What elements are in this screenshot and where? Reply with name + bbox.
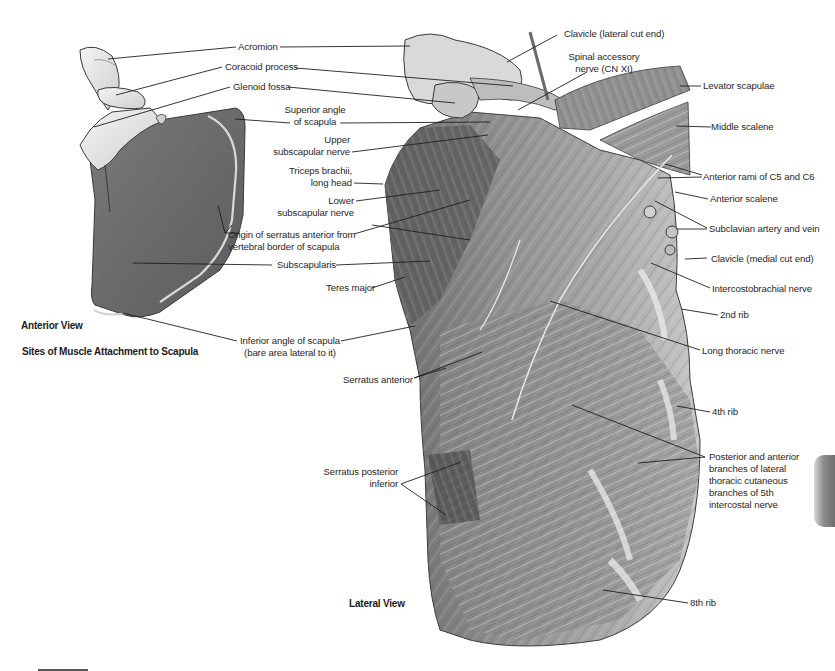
label-clavicle-lateral: Clavicle (lateral cut end) bbox=[564, 28, 664, 40]
label-2nd-rib: 2nd rib bbox=[720, 309, 749, 321]
label-anterior-rami: Anterior rami of C5 and C6 bbox=[703, 171, 815, 183]
label-clavicle-medial: Clavicle (medial cut end) bbox=[711, 253, 814, 265]
label-lower-subscapular-line1: Lower bbox=[270, 195, 354, 207]
label-serratus-origin-line1: Origin of serratus anterior from bbox=[228, 229, 355, 241]
thorax-lateral-illustration bbox=[385, 32, 700, 646]
label-triceps-line2: long head bbox=[282, 177, 352, 189]
label-subclavian-artery-vein: Subclavian artery and vein bbox=[709, 223, 819, 235]
anterior-view-subtitle: Sites of Muscle Attachment to Scapula bbox=[22, 346, 198, 357]
anterior-view-title: Anterior View bbox=[21, 320, 83, 331]
anatomy-illustration bbox=[0, 0, 835, 671]
label-long-thoracic-nerve: Long thoracic nerve bbox=[702, 345, 784, 357]
label-superior-angle-line2: of scapula bbox=[282, 116, 348, 128]
label-glenoid-fossa: Glenoid fossa bbox=[233, 81, 290, 93]
label-triceps-line1: Triceps brachii, bbox=[282, 165, 352, 177]
label-superior-angle: Superior angle of scapula bbox=[282, 104, 348, 128]
label-inferior-angle: Inferior angle of scapula (bare area lat… bbox=[238, 335, 342, 359]
label-triceps-brachii: Triceps brachii, long head bbox=[282, 165, 352, 189]
label-upper-subscapular-line2: subscapular nerve bbox=[270, 146, 350, 158]
label-superior-angle-line1: Superior angle bbox=[282, 104, 348, 116]
label-8th-rib: 8th rib bbox=[690, 597, 716, 609]
label-branches-line3: thoracic cutaneous bbox=[709, 475, 799, 487]
label-branches-line4: branches of 5th bbox=[709, 487, 799, 499]
label-middle-scalene: Middle scalene bbox=[711, 121, 774, 133]
page-thumb-tab bbox=[814, 455, 835, 527]
label-serratus-posterior-line1: Serratus posterior bbox=[316, 466, 398, 478]
label-serratus-origin: Origin of serratus anterior from vertebr… bbox=[228, 229, 355, 253]
label-acromion: Acromion bbox=[238, 41, 278, 53]
label-serratus-anterior: Serratus anterior bbox=[343, 374, 413, 386]
label-4th-rib: 4th rib bbox=[712, 406, 738, 418]
label-anterior-scalene: Anterior scalene bbox=[710, 193, 778, 205]
label-spinal-accessory-line2: nerve (CN XI) bbox=[566, 63, 642, 75]
label-upper-subscapular-nerve: Upper subscapular nerve bbox=[270, 134, 350, 158]
label-spinal-accessory-nerve: Spinal accessory nerve (CN XI) bbox=[566, 51, 642, 75]
label-lower-subscapular-nerve: Lower subscapular nerve bbox=[270, 195, 354, 219]
label-inferior-angle-line2: (bare area lateral to it) bbox=[238, 347, 342, 359]
label-subscapularis: Subscapularis bbox=[277, 259, 336, 271]
label-branches-line1: Posterior and anterior bbox=[709, 451, 799, 463]
label-spinal-accessory-line1: Spinal accessory bbox=[566, 51, 642, 63]
label-coracoid-process: Coracoid process bbox=[225, 61, 298, 73]
label-branches-line2: branches of lateral bbox=[709, 463, 799, 475]
scapula-anterior-illustration bbox=[80, 47, 245, 317]
label-upper-subscapular-line1: Upper bbox=[270, 134, 350, 146]
label-serratus-posterior-line2: inferior bbox=[316, 478, 398, 490]
lateral-view-title: Lateral View bbox=[349, 598, 405, 609]
label-lower-subscapular-line2: subscapular nerve bbox=[270, 207, 354, 219]
label-inferior-angle-line1: Inferior angle of scapula bbox=[238, 335, 342, 347]
label-serratus-posterior-inferior: Serratus posterior inferior bbox=[316, 466, 398, 490]
label-branches-line5: intercostal nerve bbox=[709, 499, 799, 511]
label-lateral-thoracic-cutaneous-branches: Posterior and anterior branches of later… bbox=[709, 451, 799, 511]
label-teres-major: Teres major bbox=[326, 282, 375, 294]
label-serratus-origin-line2: vertebral border of scapula bbox=[228, 241, 355, 253]
label-intercostobrachial-nerve: Intercostobrachial nerve bbox=[712, 283, 812, 295]
label-levator-scapulae: Levator scapulae bbox=[703, 80, 774, 92]
